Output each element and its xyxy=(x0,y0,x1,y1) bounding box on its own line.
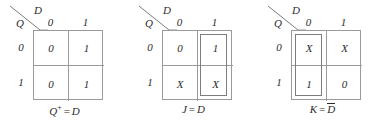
kmap-cell: 0 xyxy=(34,31,69,66)
kmap-caption: Q+=D xyxy=(0,103,129,117)
column-variable-label: D xyxy=(34,5,42,16)
kmap-caption: J=D xyxy=(129,103,258,115)
kmap-figure: D Q 0 1 0 1 0 1 0 1 Q+=D D Q 0 1 0 1 xyxy=(0,0,387,129)
caption-rhs: D xyxy=(197,103,205,115)
kmap-cell: 1 xyxy=(69,31,104,66)
kmap-cell: X xyxy=(327,31,362,66)
row-variable-label: Q xyxy=(16,18,24,29)
kmap-cell: 0 xyxy=(163,31,198,66)
caption-equals: = xyxy=(187,103,197,115)
caption-equals: = xyxy=(62,105,72,117)
column-variable-label: D xyxy=(292,5,300,16)
column-variable-label: D xyxy=(163,5,171,16)
column-header-0: 0 xyxy=(162,16,197,28)
kmap-cell: 0 xyxy=(34,66,69,101)
caption-equals: = xyxy=(317,103,327,115)
column-header-1: 1 xyxy=(326,16,361,28)
kmap-caption: K=D xyxy=(258,103,387,116)
column-header-0: 0 xyxy=(33,16,68,28)
kmap-grid: 0 1 0 1 xyxy=(33,30,103,100)
kmap-k: D Q 0 1 0 1 X X 1 0 K=D xyxy=(258,0,387,129)
row-variable-label: Q xyxy=(274,18,282,29)
kmap-cell: 0 xyxy=(327,66,362,101)
kmap-cell: X xyxy=(163,66,198,101)
column-header-1: 1 xyxy=(68,16,103,28)
kmap-cell: 1 xyxy=(69,66,104,101)
column-header-1: 1 xyxy=(197,16,232,28)
kmap-grid: 0 1 X X xyxy=(162,30,232,100)
row-header-0: 0 xyxy=(272,30,286,65)
row-header-1: 1 xyxy=(14,65,28,100)
caption-rhs: D xyxy=(327,103,335,116)
caption-lhs: Q xyxy=(49,105,57,117)
kmap-cell: 1 xyxy=(198,31,233,66)
kmap-q-next: D Q 0 1 0 1 0 1 0 1 Q+=D xyxy=(0,0,129,129)
caption-superscript: + xyxy=(57,103,62,112)
column-header-0: 0 xyxy=(291,16,326,28)
kmap-cell: 1 xyxy=(292,66,327,101)
kmap-grid: X X 1 0 xyxy=(291,30,361,100)
caption-lhs: K xyxy=(310,103,317,115)
row-header-0: 0 xyxy=(14,30,28,65)
kmap-cell: X xyxy=(292,31,327,66)
kmap-j: D Q 0 1 0 1 0 1 X X J=D xyxy=(129,0,258,129)
row-header-1: 1 xyxy=(143,65,157,100)
row-header-0: 0 xyxy=(143,30,157,65)
kmap-cell: X xyxy=(198,66,233,101)
row-variable-label: Q xyxy=(145,18,153,29)
row-header-1: 1 xyxy=(272,65,286,100)
caption-rhs: D xyxy=(72,105,80,117)
